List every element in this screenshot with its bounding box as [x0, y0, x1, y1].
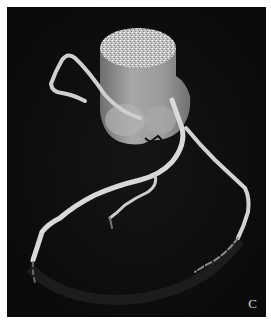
figure-panel: C	[7, 7, 266, 317]
aorta-cut-surface	[100, 28, 176, 68]
coronary-rendering	[7, 7, 266, 317]
panel-label: C	[248, 296, 257, 312]
